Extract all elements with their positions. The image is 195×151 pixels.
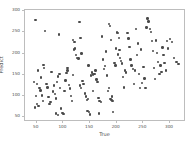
data-point bbox=[143, 77, 145, 79]
data-point bbox=[103, 68, 105, 70]
data-point bbox=[44, 30, 46, 32]
data-point bbox=[161, 46, 163, 48]
y-axis-tick bbox=[22, 10, 24, 11]
data-point bbox=[118, 49, 120, 51]
data-point bbox=[50, 71, 52, 73]
data-point bbox=[155, 39, 157, 41]
data-point bbox=[68, 84, 70, 86]
data-point bbox=[34, 106, 36, 108]
data-point bbox=[130, 64, 132, 66]
data-point bbox=[100, 101, 102, 103]
data-point bbox=[64, 79, 66, 81]
data-point bbox=[57, 114, 59, 116]
data-point bbox=[128, 46, 130, 48]
data-point bbox=[141, 82, 143, 84]
data-point bbox=[109, 25, 111, 27]
data-point bbox=[147, 20, 149, 22]
y-axis-tick-label: 300 bbox=[12, 8, 20, 12]
data-point bbox=[127, 37, 129, 39]
data-point bbox=[46, 86, 48, 88]
data-point bbox=[79, 37, 81, 39]
data-point bbox=[56, 81, 58, 83]
y-axis-tick bbox=[22, 53, 24, 54]
data-point bbox=[89, 113, 91, 115]
data-point bbox=[40, 76, 42, 78]
data-point bbox=[117, 53, 119, 55]
y-axis-tick bbox=[22, 31, 24, 32]
data-point bbox=[165, 69, 167, 71]
y-axis-label: Predict bbox=[0, 56, 4, 73]
data-point bbox=[140, 48, 142, 50]
data-point bbox=[114, 64, 116, 66]
y-axis-tick-label: 250 bbox=[12, 29, 20, 33]
data-point bbox=[163, 62, 165, 64]
data-point bbox=[93, 73, 95, 75]
data-point bbox=[118, 37, 120, 39]
data-point bbox=[134, 69, 136, 71]
data-point bbox=[153, 67, 155, 69]
data-point bbox=[55, 97, 57, 99]
data-point bbox=[150, 31, 152, 33]
data-point bbox=[166, 40, 168, 42]
data-point bbox=[136, 54, 138, 56]
data-point bbox=[159, 64, 161, 66]
x-axis-tick-label: 250 bbox=[138, 125, 146, 129]
plot-area bbox=[24, 9, 185, 121]
data-point bbox=[72, 74, 74, 76]
y-axis-tick bbox=[22, 74, 24, 75]
data-point bbox=[37, 105, 39, 107]
data-point bbox=[106, 74, 108, 76]
data-point bbox=[53, 84, 55, 86]
data-point bbox=[121, 62, 123, 64]
data-point bbox=[49, 101, 51, 103]
data-point bbox=[33, 81, 35, 83]
data-point bbox=[74, 47, 76, 49]
data-point bbox=[169, 38, 171, 40]
scatter-chart-figure: 5010015020025030050100150200250300 True … bbox=[0, 0, 195, 151]
data-point bbox=[117, 32, 119, 34]
data-point bbox=[78, 21, 80, 23]
data-point bbox=[111, 95, 113, 97]
y-axis-tick-label: 200 bbox=[12, 50, 20, 54]
data-point bbox=[86, 110, 88, 112]
data-point bbox=[105, 50, 107, 52]
data-point bbox=[139, 87, 141, 89]
data-point bbox=[111, 100, 113, 102]
data-point bbox=[108, 87, 110, 89]
data-point bbox=[142, 66, 144, 68]
data-point bbox=[41, 94, 43, 96]
data-point bbox=[77, 57, 79, 59]
data-point bbox=[71, 100, 73, 102]
data-point bbox=[167, 47, 169, 49]
data-point bbox=[145, 26, 147, 28]
data-point bbox=[162, 54, 164, 56]
data-point bbox=[36, 83, 38, 85]
data-point bbox=[98, 112, 100, 114]
data-point bbox=[65, 72, 67, 74]
data-point bbox=[156, 52, 158, 54]
data-point bbox=[152, 50, 154, 52]
y-axis-tick-label: 50 bbox=[15, 114, 20, 118]
data-point bbox=[97, 97, 99, 99]
data-point bbox=[60, 107, 62, 109]
data-point bbox=[42, 100, 44, 102]
y-axis-tick bbox=[22, 95, 24, 96]
data-point bbox=[171, 41, 173, 43]
data-point bbox=[80, 52, 82, 54]
x-axis-tick-label: 100 bbox=[58, 125, 66, 129]
data-point bbox=[35, 95, 37, 97]
data-point bbox=[34, 19, 36, 21]
x-axis-tick-label: 200 bbox=[112, 125, 120, 129]
data-point bbox=[69, 87, 71, 89]
data-point bbox=[66, 69, 68, 71]
y-axis-tick bbox=[22, 116, 24, 117]
data-point bbox=[112, 111, 114, 113]
data-point bbox=[87, 64, 89, 66]
data-point bbox=[57, 75, 59, 77]
data-point bbox=[101, 35, 103, 37]
data-point bbox=[73, 41, 75, 43]
data-point bbox=[137, 42, 139, 44]
data-point bbox=[133, 83, 135, 85]
data-point bbox=[110, 39, 112, 41]
data-point bbox=[43, 67, 45, 69]
